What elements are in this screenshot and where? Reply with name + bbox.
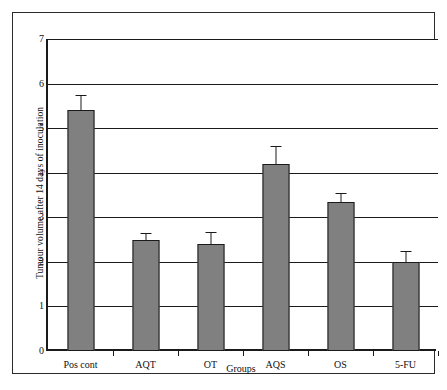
error-bar-cap xyxy=(400,251,411,252)
figure-bar-chart: Tumour volume after 14 days of inoculati… xyxy=(0,0,447,390)
figure-outer-frame: Tumour volume after 14 days of inoculati… xyxy=(12,12,435,374)
x-axis-tick xyxy=(373,351,374,356)
bar-ot[interactable] xyxy=(197,244,224,351)
y-axis-tick-label: 1 xyxy=(39,301,44,311)
error-bar-line xyxy=(275,146,276,164)
y-axis-tick-label: 3 xyxy=(39,212,44,222)
y-axis-tick-label: 2 xyxy=(39,257,44,267)
bar-group[interactable] xyxy=(308,39,373,351)
error-bar-line xyxy=(80,95,81,111)
error-bar-cap xyxy=(270,146,281,147)
x-axis-tick xyxy=(438,351,439,356)
bar-aqs[interactable] xyxy=(262,164,289,351)
bar-5-fu[interactable] xyxy=(392,262,419,351)
y-axis-title: Tumour volume after 14 days of inoculati… xyxy=(35,63,45,323)
x-axis-tick xyxy=(308,351,309,356)
x-axis-tick xyxy=(113,351,114,356)
error-bar-line xyxy=(340,193,341,202)
error-bar-cap xyxy=(75,95,86,96)
plot-area: 01234567 Pos contAQTOTAQSOS5-FU xyxy=(46,39,436,351)
error-bar-line xyxy=(210,232,211,244)
error-bar-cap xyxy=(205,232,216,233)
bar-os[interactable] xyxy=(327,202,354,351)
bar-group[interactable] xyxy=(113,39,178,351)
y-axis-tick-label: 4 xyxy=(39,168,44,178)
error-bar-cap xyxy=(335,193,346,194)
bar-group[interactable] xyxy=(243,39,308,351)
error-bar-line xyxy=(405,251,406,262)
y-axis-tick-label: 5 xyxy=(39,123,44,133)
x-axis-tick xyxy=(243,351,244,356)
x-axis-title: Groups xyxy=(46,363,436,374)
y-axis-tick-label: 6 xyxy=(39,78,44,88)
error-bar-line xyxy=(145,233,146,240)
y-axis-tick-label: 0 xyxy=(39,346,44,356)
x-axis-tick xyxy=(178,351,179,356)
error-bar-cap xyxy=(140,233,151,234)
bar-group[interactable] xyxy=(178,39,243,351)
bar-aqt[interactable] xyxy=(132,240,159,351)
bar-group[interactable] xyxy=(373,39,438,351)
bar-group[interactable] xyxy=(48,39,113,351)
y-axis-tick-label: 7 xyxy=(39,34,44,44)
bar-pos-cont[interactable] xyxy=(67,110,94,351)
bars-layer xyxy=(48,39,438,351)
